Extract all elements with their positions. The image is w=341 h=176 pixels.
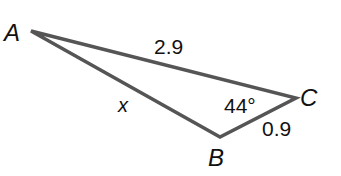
- triangle-diagram: A C B 2.9 0.9 x 44°: [0, 0, 341, 176]
- vertex-label-a: A: [2, 19, 20, 46]
- vertex-label-c: C: [300, 84, 318, 111]
- side-ac-length: 2.9: [154, 35, 183, 58]
- vertex-label-b: B: [208, 144, 224, 171]
- angle-c-measure: 44°: [224, 94, 256, 117]
- side-bc-length: 0.9: [262, 117, 291, 140]
- triangle-svg: A C B 2.9 0.9 x 44°: [0, 0, 341, 176]
- side-ab-variable: x: [117, 94, 129, 116]
